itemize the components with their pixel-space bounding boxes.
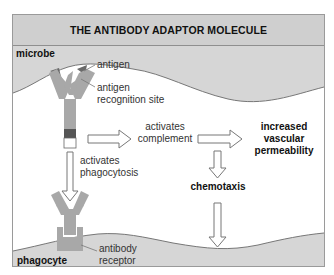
label-phagocyte: phagocyte <box>17 255 67 267</box>
label-antigen-recognition: antigen <box>97 82 130 94</box>
label-vascular: vascular <box>245 133 323 145</box>
label-antigen-recognition-site: recognition site <box>97 94 164 106</box>
label-complement: complement <box>131 133 199 145</box>
label-receptor: receptor <box>99 255 136 267</box>
arrow-to-permeability <box>198 130 242 148</box>
arrow-to-complement <box>88 130 131 148</box>
arrow-to-phagocytosis <box>62 152 78 201</box>
label-increased: increased <box>245 121 323 133</box>
arrow-to-chemotaxis <box>209 151 226 178</box>
label-microbe: microbe <box>16 48 55 60</box>
label-antigen: antigen <box>97 59 130 71</box>
label-activates-phago: activates <box>80 155 119 167</box>
diagram-frame: THE ANTIBODY ADAPTOR MOLECULE <box>12 14 325 267</box>
label-antibody: antibody <box>99 243 137 255</box>
label-permeability: permeability <box>245 145 323 157</box>
label-phagocytosis: phagocytosis <box>80 167 138 179</box>
label-chemotaxis: chemotaxis <box>181 181 255 193</box>
label-activates: activates <box>135 121 195 133</box>
arrow-chemotaxis-to-phagocyte <box>209 203 226 247</box>
